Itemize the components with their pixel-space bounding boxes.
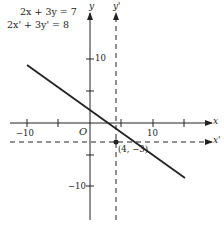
origin-label: O <box>79 127 87 137</box>
y-tick-neg10: −10 <box>68 182 86 191</box>
x-prime-axis-label: x' <box>213 136 221 145</box>
coordinate-diagram: 2x + 3y = 7 2x' + 3y' = 8 y y' x x' O −1… <box>0 0 224 227</box>
x-tick-neg10: −10 <box>16 129 34 138</box>
y-prime-axis-label: y' <box>113 2 121 11</box>
point-label: (4, −3) <box>118 145 148 154</box>
x-tick-10: 10 <box>147 129 158 138</box>
x-axis-label: x <box>213 117 218 126</box>
diagram-canvas <box>0 0 224 227</box>
equation-original: 2x + 3y = 7 <box>20 7 77 17</box>
equation-translated: 2x' + 3y' = 8 <box>7 20 69 30</box>
graph-line <box>27 65 185 178</box>
y-axis-label: y <box>89 2 94 11</box>
y-tick-10: 10 <box>95 54 106 63</box>
